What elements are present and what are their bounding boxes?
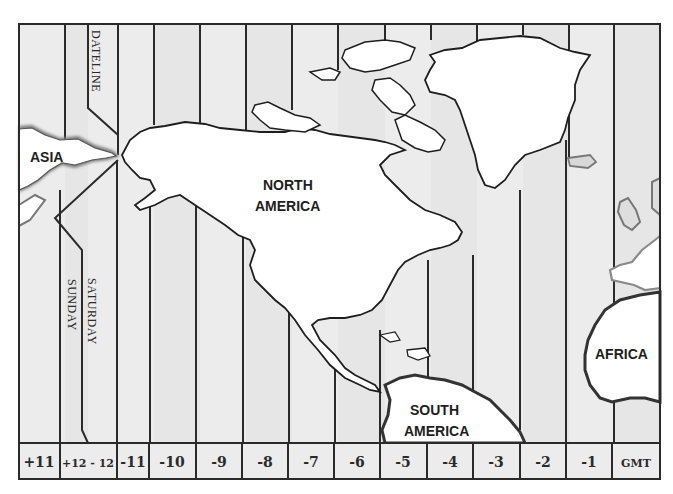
zone-minus-7: -7: [303, 454, 319, 470]
zone-plus-11: +11: [23, 454, 54, 470]
asia-label: ASIA: [30, 149, 63, 165]
zone-minus-4: -4: [442, 454, 458, 470]
zone-plus-12-minus-12: +12 - 12: [62, 457, 114, 470]
north-america-label-line2: AMERICA: [255, 198, 320, 214]
south-america-label-line2: AMERICA: [404, 423, 469, 439]
zone-minus-11: -11: [120, 454, 145, 470]
time-zone-map: DATELINE SATURDAY SUNDAY ASIA NORTH AMER…: [0, 0, 673, 494]
zone-minus-1: -1: [581, 454, 597, 470]
zone-minus-8: -8: [257, 454, 273, 470]
sunday-label: SUNDAY: [65, 279, 79, 331]
south-america-label-line1: SOUTH: [410, 402, 459, 418]
saturday-label: SATURDAY: [85, 278, 99, 345]
zone-minus-10: -10: [159, 454, 185, 470]
north-america-label-line1: NORTH: [263, 177, 313, 193]
dateline-label: DATELINE: [89, 30, 103, 92]
zone-minus-6: -6: [349, 454, 365, 470]
zone-minus-9: -9: [211, 454, 227, 470]
zone-gmt: GMT: [621, 457, 652, 470]
africa-label: AFRICA: [595, 346, 648, 362]
time-zone-row: +11 +12 - 12 -11 -10 -9 -8 -7 -6 -5 -4 -…: [19, 443, 660, 479]
zone-minus-5: -5: [395, 454, 411, 470]
zone-minus-2: -2: [535, 454, 551, 470]
zone-minus-3: -3: [488, 454, 504, 470]
